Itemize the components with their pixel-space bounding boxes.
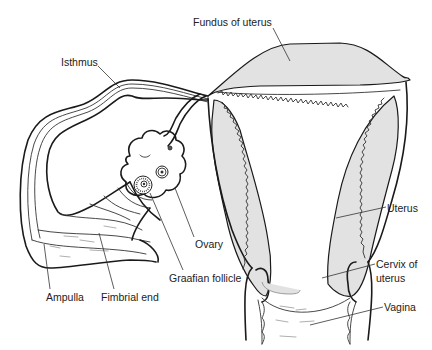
leader-graafian [150, 193, 183, 270]
label-vagina: Vagina [384, 301, 416, 313]
uterus-anatomy-diagram: Fundus of uterus Isthmus Ovary Uterus Ce… [0, 0, 432, 350]
ovary [121, 94, 206, 197]
leader-vagina [310, 307, 383, 325]
label-fimbrial-end: Fimbrial end [101, 291, 159, 303]
label-fundus: Fundus of uterus [193, 16, 272, 28]
label-cervix-line1: Cervix of [376, 258, 418, 270]
diagram-stage: Fundus of uterus Isthmus Ovary Uterus Ce… [0, 0, 432, 350]
label-ampulla: Ampulla [46, 291, 84, 303]
leader-isthmus [98, 66, 120, 88]
uterus-body [208, 43, 410, 344]
leader-ovary [175, 188, 194, 237]
label-uterus: Uterus [387, 202, 418, 214]
leader-ampulla [44, 244, 50, 289]
label-isthmus: Isthmus [61, 56, 98, 68]
label-graafian-follicle: Graafian follicle [169, 272, 242, 284]
label-cervix-line2: uterus [376, 272, 405, 284]
label-ovary: Ovary [195, 238, 224, 250]
